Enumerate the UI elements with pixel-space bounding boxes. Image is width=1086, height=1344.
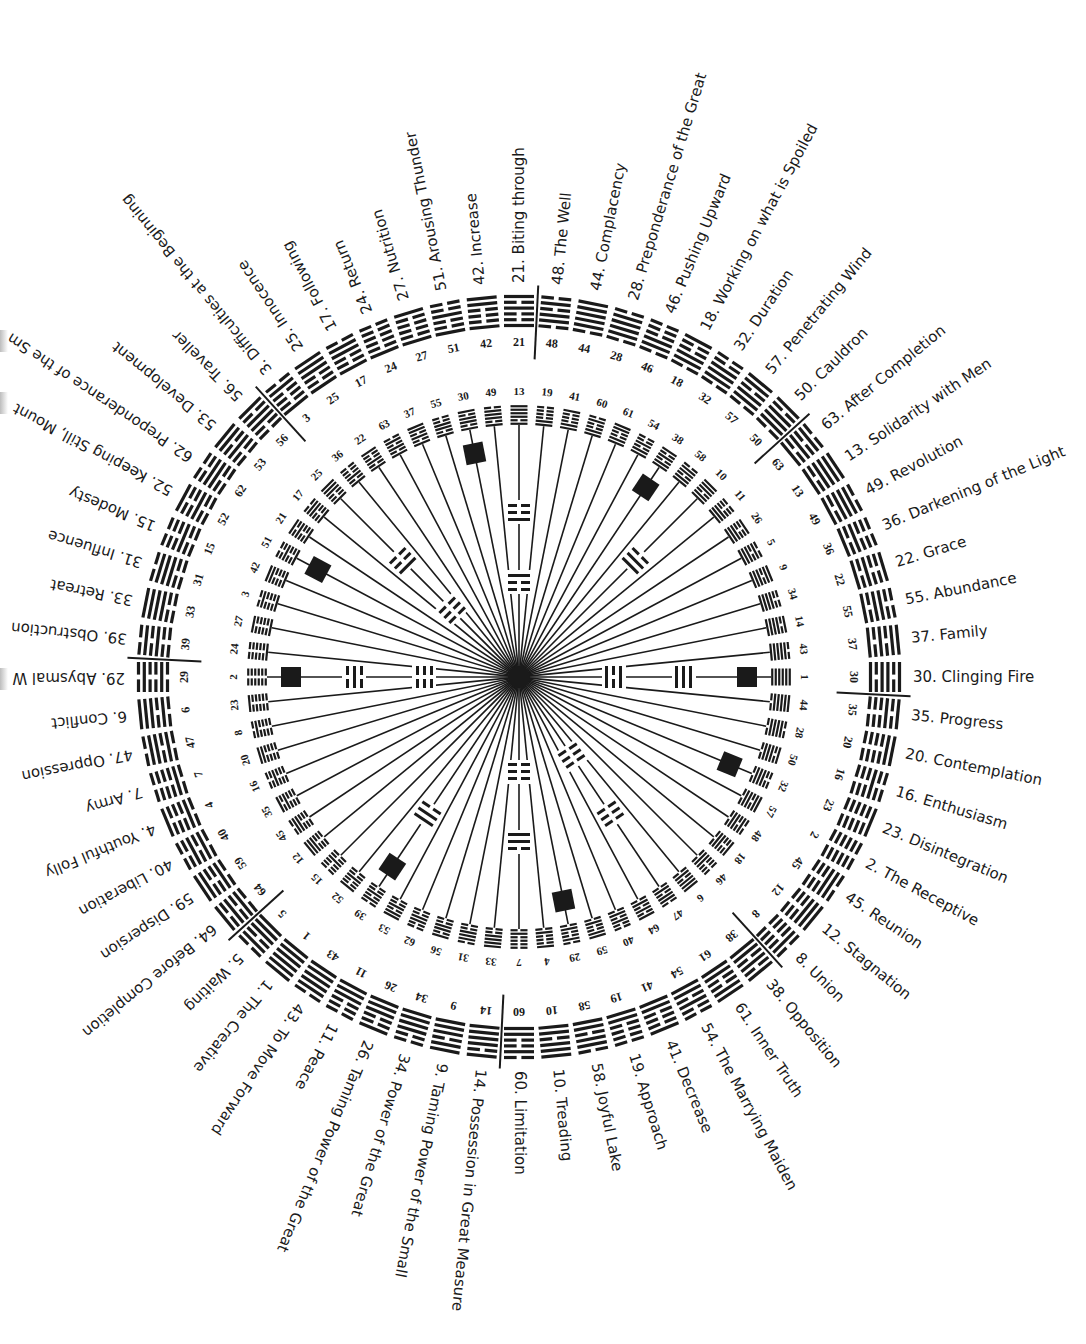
inner-hexagram-13 bbox=[511, 405, 528, 425]
hexagram-label-29: 29. Abysmal W bbox=[12, 669, 125, 687]
hexagram-label-43: 43. To Move Forward bbox=[207, 1000, 308, 1138]
inner-hexagram-53 bbox=[383, 895, 407, 920]
hub-dot bbox=[508, 666, 530, 688]
outer-number-22: 22 bbox=[831, 572, 848, 588]
spoke bbox=[297, 558, 514, 674]
inner-number-46: 46 bbox=[713, 871, 730, 888]
hexagram-label-13: 13. Solidarity with Men bbox=[841, 354, 994, 465]
inner-number-31: 31 bbox=[457, 951, 470, 965]
outer-hexagram-4 bbox=[160, 797, 201, 837]
outer-number-26: 26 bbox=[382, 978, 398, 996]
inner-hexagram-2 bbox=[247, 669, 267, 686]
outer-hexagram-30 bbox=[869, 662, 901, 692]
hexagram-label-60: 60. Limitation bbox=[511, 1071, 529, 1175]
trigram-marker-earth bbox=[412, 664, 436, 690]
inner-hexagram-54 bbox=[630, 433, 654, 458]
outer-number-59: 59 bbox=[231, 854, 249, 872]
hexagram-label-63: 63. After Completion bbox=[818, 321, 949, 433]
square-marker bbox=[304, 556, 331, 583]
inner-hexagram-19 bbox=[535, 406, 554, 427]
outer-hexagram-8 bbox=[756, 914, 800, 958]
outer-hexagram-27 bbox=[394, 307, 432, 347]
inner-hexagram-5 bbox=[737, 541, 762, 565]
outer-number-37: 37 bbox=[845, 637, 860, 650]
outer-hexagram-34 bbox=[394, 1007, 432, 1047]
inner-number-10: 10 bbox=[713, 466, 730, 483]
inner-hexagram-60 bbox=[584, 414, 606, 438]
inner-number-52: 52 bbox=[329, 890, 346, 907]
outer-number-63: 63 bbox=[769, 455, 787, 473]
inner-number-18: 18 bbox=[732, 851, 749, 868]
inner-hexagram-12 bbox=[303, 830, 329, 856]
outer-hexagram-29 bbox=[137, 662, 169, 692]
outer-number-19: 19 bbox=[609, 989, 625, 1006]
outer-number-18: 18 bbox=[668, 372, 685, 390]
outer-hexagram-55 bbox=[859, 588, 896, 624]
outer-number-25: 25 bbox=[324, 389, 342, 407]
inner-hexagram-34 bbox=[758, 590, 782, 612]
inner-number-45: 45 bbox=[272, 828, 288, 844]
inner-number-28: 28 bbox=[793, 726, 807, 740]
inner-number-59: 59 bbox=[595, 944, 609, 959]
outer-hexagram-22 bbox=[849, 552, 889, 590]
outer-number-50: 50 bbox=[747, 431, 765, 449]
inner-hexagram-24 bbox=[248, 642, 269, 661]
outer-number-45: 45 bbox=[789, 854, 807, 872]
hexagram-label-26: 26. Taming Power of the Great bbox=[273, 1038, 377, 1255]
inner-number-9: 9 bbox=[777, 563, 790, 573]
outer-hexagram-5 bbox=[238, 914, 282, 958]
inner-number-34: 34 bbox=[786, 587, 801, 601]
outer-number-33: 33 bbox=[182, 604, 198, 619]
outer-hexagram-23 bbox=[837, 797, 878, 837]
outer-number-31: 31 bbox=[190, 572, 207, 588]
hexagram-label-64: 64. Before Completion bbox=[79, 920, 221, 1041]
outer-number-42: 42 bbox=[479, 336, 492, 351]
inner-number-30: 30 bbox=[457, 389, 471, 403]
outer-number-27: 27 bbox=[414, 348, 430, 365]
inner-number-15: 15 bbox=[308, 871, 325, 888]
outer-hexagram-24 bbox=[359, 318, 399, 359]
scan-shadow bbox=[0, 392, 8, 414]
trigram-marker-heaven bbox=[672, 664, 696, 690]
outer-hexagram-49 bbox=[821, 484, 864, 526]
outer-number-47: 47 bbox=[182, 735, 198, 750]
hexagram-label-30: 30. Clinging Fire bbox=[913, 668, 1034, 686]
outer-hexagram-60 bbox=[504, 1027, 534, 1059]
sector-divider bbox=[500, 995, 504, 1069]
hexagram-label-44: 44. Complacency bbox=[587, 161, 630, 292]
inner-hexagram-64 bbox=[630, 895, 654, 920]
inner-number-36: 36 bbox=[329, 447, 346, 464]
inner-hexagram-56 bbox=[432, 916, 454, 940]
spoke bbox=[524, 680, 741, 796]
inner-number-57: 57 bbox=[764, 804, 780, 820]
center-hub bbox=[508, 666, 530, 688]
outer-hexagram-33 bbox=[141, 588, 178, 624]
inner-number-44: 44 bbox=[798, 699, 811, 712]
outer-number-49: 49 bbox=[806, 510, 824, 527]
outer-hexagram-44 bbox=[573, 299, 609, 336]
inner-number-32: 32 bbox=[776, 779, 791, 794]
outer-number-17: 17 bbox=[352, 372, 369, 390]
outer-number-36: 36 bbox=[820, 540, 838, 556]
hexagram-label-48: 48. The Well bbox=[548, 192, 575, 286]
spoke bbox=[522, 455, 638, 672]
square-marker bbox=[552, 889, 576, 913]
inner-hexagram-17 bbox=[303, 498, 329, 524]
hexagram-label-31: 31. Influence bbox=[46, 526, 145, 572]
outer-number-7: 7 bbox=[191, 769, 206, 779]
inner-hexagram-63 bbox=[383, 433, 407, 458]
outer-number-23: 23 bbox=[820, 797, 838, 813]
outer-number-44: 44 bbox=[577, 340, 592, 356]
outer-number-52: 52 bbox=[214, 510, 232, 527]
inner-hexagram-29 bbox=[560, 923, 581, 946]
inner-number-50: 50 bbox=[786, 753, 801, 767]
outer-number-15: 15 bbox=[201, 540, 219, 556]
spoke bbox=[297, 680, 514, 796]
inner-hexagram-52 bbox=[340, 867, 366, 893]
inner-number-21: 21 bbox=[273, 510, 289, 526]
outer-number-56: 56 bbox=[273, 431, 291, 449]
hexagram-label-58: 58. Joyful Lake bbox=[588, 1062, 627, 1173]
inner-number-11: 11 bbox=[733, 487, 749, 503]
inner-hexagram-43 bbox=[769, 642, 790, 661]
inner-number-6: 6 bbox=[694, 892, 706, 905]
